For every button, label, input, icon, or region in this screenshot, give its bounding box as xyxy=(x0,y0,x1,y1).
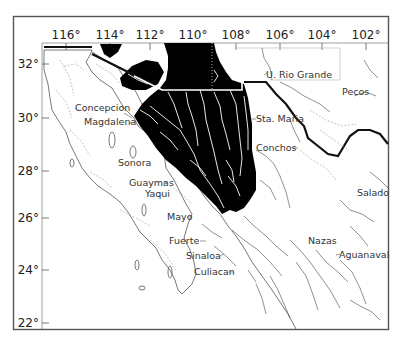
lat-label: 22° xyxy=(18,316,39,330)
latitude-tick-labels: 32° 30° 28° 26° 24° 22° xyxy=(18,57,39,330)
label-concepcion: Concepcion xyxy=(75,102,130,113)
lon-label: 106° xyxy=(266,28,295,42)
highlighted-northwest-lobe xyxy=(120,60,164,90)
lat-label: 30° xyxy=(18,111,39,125)
label-sinaloa: Sinaloa xyxy=(186,250,221,261)
lon-label: 110° xyxy=(179,28,208,42)
lon-label: 102° xyxy=(352,28,381,42)
label-guaymas: Guaymas xyxy=(129,177,174,188)
label-sonora: Sonora xyxy=(118,157,151,168)
highlighted-north-lobe xyxy=(100,44,122,58)
lat-label: 28° xyxy=(18,164,39,178)
longitude-tick-labels: 116° 114° 112° 110° 108° 106° 104° 102° xyxy=(52,28,381,42)
label-magdalena: Magdalena xyxy=(84,116,136,127)
latitude-ticks xyxy=(42,64,49,323)
label-sta-maria: Sta. Maria xyxy=(256,113,304,124)
label-aguanaval: Aguanaval xyxy=(339,249,389,260)
lat-label: 32° xyxy=(18,57,39,71)
label-fuerte: Fuerte xyxy=(169,235,199,246)
label-salado: Salado xyxy=(357,187,389,198)
label-nazas: Nazas xyxy=(308,235,337,246)
lat-label: 26° xyxy=(18,211,39,225)
lat-label: 24° xyxy=(18,263,39,277)
gulf-islands xyxy=(70,132,172,290)
label-yaqui: Yaqui xyxy=(144,188,170,199)
label-u-rio-grande: U. Rio Grande xyxy=(266,69,332,80)
lon-label: 112° xyxy=(136,28,165,42)
lon-label: 108° xyxy=(222,28,251,42)
map-figure: 116° 114° 112° 110° 108° 106° 104° 102° … xyxy=(0,0,397,346)
label-conchos: Conchos xyxy=(256,142,297,153)
lon-label: 104° xyxy=(308,28,337,42)
lon-label: 116° xyxy=(52,28,81,42)
label-culiacan: Culiacan xyxy=(194,266,235,277)
lon-label: 114° xyxy=(96,28,125,42)
label-pecos: Pecos xyxy=(342,86,369,97)
